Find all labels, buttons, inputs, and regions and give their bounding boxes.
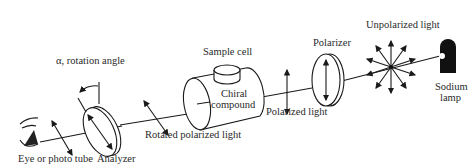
sodium-label-1: Sodium <box>435 81 468 92</box>
compound-label: compound <box>211 99 256 110</box>
detector-label: Eye or photo tube <box>18 153 93 164</box>
polarized-light-label: Polarized light <box>266 106 328 117</box>
rotation-angle-label: α, rotation angle <box>56 55 125 66</box>
sodium-label-2: lamp <box>440 92 461 103</box>
analyzer-label: Analyzer <box>97 153 136 164</box>
rotated-light-label: Rotated polarized light <box>145 129 241 140</box>
chiral-label: Chiral <box>221 88 247 99</box>
polarimeter-diagram: Sodium lamp Unpolarized light Polarizer … <box>0 0 472 166</box>
sample-cell-label: Sample cell <box>203 46 252 57</box>
unpolarized-light-label: Unpolarized light <box>366 19 440 30</box>
exit-light-arrow <box>52 121 72 155</box>
polarizer-label: Polarizer <box>313 37 351 48</box>
polarizer-disc <box>312 54 344 106</box>
unpolarized-light-starburst <box>367 41 415 93</box>
eye-icon <box>20 118 38 146</box>
sodium-lamp-icon <box>439 39 456 73</box>
